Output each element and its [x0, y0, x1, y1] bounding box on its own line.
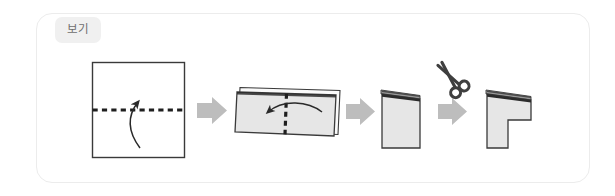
cut-shape-step4 [487, 94, 531, 148]
step-arrow-2 [346, 98, 375, 125]
step-1-flat-square-sheet [93, 63, 185, 158]
step-2-once-folded-sheet [235, 88, 340, 137]
booklet-body-step3 [382, 94, 420, 148]
paper-folding-diagram [0, 0, 615, 196]
step-4-cut-booklet-notched [486, 90, 531, 148]
step-arrow-3 [438, 98, 467, 125]
diagram-stage: 보기 [0, 0, 615, 196]
step-arrow-1 [197, 97, 227, 124]
step-3-twice-folded-booklet [381, 90, 420, 148]
scissors-icon [432, 57, 471, 99]
